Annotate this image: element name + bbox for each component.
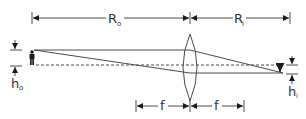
focal-left-label: f xyxy=(160,98,165,113)
image-height-label: h xyxy=(288,84,296,99)
image-distance-dimension: R i xyxy=(190,11,290,28)
object-height-dimension: h o xyxy=(10,40,23,92)
focal-right-label: f xyxy=(214,98,219,113)
object-distance-subscript: o xyxy=(117,20,121,28)
object-height-label: h xyxy=(11,76,19,91)
object-distance-label: R xyxy=(108,11,117,26)
convex-lens xyxy=(183,34,197,101)
light-rays xyxy=(34,50,283,73)
parallel-ray xyxy=(34,50,283,73)
image-height-dimension: h i xyxy=(280,56,298,100)
object-height-subscript: o xyxy=(19,84,23,92)
image-height-subscript: i xyxy=(296,92,298,100)
image-distance-subscript: i xyxy=(242,20,244,28)
focal-ray xyxy=(34,50,283,73)
object-distance-dimension: R o xyxy=(32,11,189,28)
person-icon xyxy=(30,50,35,65)
lens-ray-diagram: R o R i h o xyxy=(0,0,306,119)
focal-length-dimensions: f f xyxy=(136,98,244,113)
